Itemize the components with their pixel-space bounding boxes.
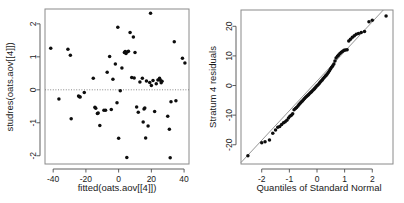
- data-point: [367, 20, 371, 24]
- data-point: [132, 76, 136, 80]
- data-point: [125, 156, 129, 160]
- normal-qq-svg: -2-1012-20-1001020 Quantiles of Standard…: [202, 0, 404, 203]
- data-point: [110, 108, 114, 112]
- data-points: [246, 14, 388, 157]
- data-point: [174, 99, 178, 103]
- y-tick-label: -20: [224, 138, 234, 151]
- data-point: [363, 30, 367, 34]
- r-diagnostic-plots-figure: -40-2002040-2-1012 fitted(oats.aov[[4]])…: [0, 0, 404, 203]
- panel-normal-qq: -2-1012-20-1001020 Quantiles of Standard…: [202, 0, 404, 203]
- data-point: [127, 49, 131, 53]
- data-point: [155, 82, 159, 86]
- data-point: [384, 14, 388, 18]
- x-axis-title-left: fitted(oats.aov[[4]]): [78, 182, 157, 193]
- data-point: [105, 71, 109, 75]
- plot-content-left: -40-2002040-2-1012: [28, 9, 189, 184]
- data-point: [49, 46, 53, 50]
- y-tick-label: -10: [224, 109, 234, 122]
- data-point: [104, 108, 108, 112]
- data-point: [169, 100, 173, 104]
- y-tick-label: -2: [28, 152, 38, 160]
- data-point: [153, 110, 157, 114]
- y-tick-label: 0: [28, 87, 38, 92]
- x-axis-title-right: Quantiles of Standard Normal: [256, 182, 381, 193]
- y-tick-label: 20: [224, 21, 234, 31]
- data-point: [260, 141, 264, 145]
- data-point: [69, 53, 73, 57]
- data-point: [148, 81, 152, 85]
- data-point: [57, 97, 61, 101]
- data-point: [271, 131, 275, 135]
- plot-content-right: -2-1012-20-1001020: [224, 10, 393, 184]
- data-point: [141, 77, 145, 81]
- x-tick-label: 40: [179, 174, 189, 184]
- panel-residuals-vs-fitted: -40-2002040-2-1012 fitted(oats.aov[[4]])…: [0, 0, 202, 203]
- data-point: [291, 112, 295, 116]
- y-tick-label: -1: [28, 119, 38, 127]
- data-point: [132, 35, 136, 39]
- y-tick-label: 0: [224, 83, 234, 88]
- data-point: [181, 56, 185, 60]
- data-point: [119, 89, 123, 93]
- data-point: [143, 106, 147, 110]
- data-point: [66, 47, 70, 51]
- data-point: [128, 31, 132, 35]
- data-point: [83, 91, 87, 95]
- data-point: [98, 124, 102, 128]
- data-point: [173, 40, 177, 44]
- data-point: [246, 154, 250, 158]
- data-point: [371, 19, 375, 23]
- residuals-vs-fitted-svg: -40-2002040-2-1012 fitted(oats.aov[[4]])…: [0, 0, 202, 203]
- x-tick-label: -40: [47, 174, 60, 184]
- data-point: [69, 117, 73, 121]
- data-point: [141, 120, 145, 124]
- data-point: [94, 107, 98, 111]
- data-point: [135, 105, 139, 109]
- y-axis-title-left: studres(oats.aov[[4]]): [4, 42, 15, 131]
- data-point: [263, 140, 267, 144]
- data-point: [115, 101, 119, 105]
- data-point: [78, 95, 82, 99]
- data-point: [120, 66, 124, 70]
- data-point: [144, 136, 148, 140]
- data-point: [116, 25, 120, 29]
- data-point: [151, 79, 155, 83]
- data-point: [138, 80, 142, 84]
- data-point: [96, 111, 100, 115]
- data-point: [133, 51, 137, 55]
- data-point: [166, 114, 170, 118]
- data-point: [183, 61, 187, 64]
- data-point: [268, 138, 272, 142]
- data-point: [92, 77, 96, 81]
- data-point: [111, 77, 115, 81]
- data-point: [108, 55, 112, 59]
- y-axis-title-right: Stratum 4 residuals: [207, 46, 218, 128]
- data-points: [49, 12, 187, 160]
- y-tick-label: 1: [28, 54, 38, 59]
- data-point: [345, 48, 349, 52]
- data-point: [160, 79, 164, 83]
- data-point: [149, 12, 153, 16]
- data-point: [150, 84, 154, 88]
- data-point: [359, 31, 363, 35]
- plot-box: [45, 9, 189, 164]
- y-tick-label: 2: [28, 21, 38, 26]
- data-point: [168, 128, 172, 132]
- data-point: [145, 79, 149, 83]
- data-point: [117, 137, 121, 141]
- data-point: [168, 156, 172, 160]
- data-point: [137, 110, 141, 114]
- y-tick-label: 10: [224, 51, 234, 61]
- data-point: [146, 124, 150, 128]
- data-point: [114, 62, 118, 66]
